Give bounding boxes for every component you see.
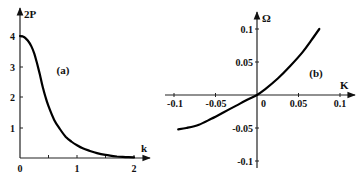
panel-b-xlabel: K [340,79,349,91]
panel-a-xtick-label: 1 [75,163,80,174]
panel-a-ytick-label: 2 [10,92,15,103]
panel-b-label: (b) [309,67,323,80]
panel-a-label: (a) [57,64,70,77]
figure: 4 3 2 1 0 1 2 2P k (a) 0.1 0.05 -0.05 -0… [0,0,359,183]
panel-b-xtick-label: -0.05 [206,98,227,109]
panel-a-ytick-label: 3 [10,62,15,73]
panel-b-ylabel: Ω [262,12,271,24]
panel-b: 0.1 0.05 -0.05 -0.1 -0.1 -0.05 0 0.05 0.… [165,12,355,168]
panel-a-ytick-label: 4 [10,31,15,42]
panel-a-curve [20,36,134,157]
panel-a: 4 3 2 1 0 1 2 2P k (a) [10,8,150,174]
panel-b-ytick-label: -0.1 [237,156,253,167]
panel-b-ytick-label: 0.1 [241,24,254,35]
panel-b-xtick-label: 0.1 [334,98,347,109]
panel-b-xtick-label: -0.1 [167,98,183,109]
panel-b-xtick-label: 0.05 [290,98,308,109]
panel-a-xlabel: k [141,142,148,154]
panel-a-xtick-label: 2 [132,163,137,174]
panel-b-xtick-label: 0 [261,98,266,109]
panel-a-xtick-label: 0 [18,163,23,174]
panel-b-curve [178,29,319,129]
panel-b-ytick-label: -0.05 [232,123,253,134]
panel-a-ytick-label: 1 [10,123,15,134]
panel-a-ylabel: 2P [24,8,37,20]
panel-b-ytick-label: 0.05 [236,57,254,68]
